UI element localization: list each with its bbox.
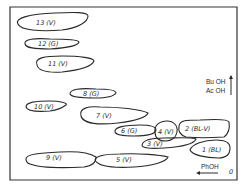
svg-text:PhOH: PhOH [201, 163, 219, 170]
svg-text:3 (V): 3 (V) [147, 140, 163, 148]
chromatogram-diagram: 13 (V) 12 (G) 11 (V) 8 (G) 10 (V) 7 (V) … [0, 0, 241, 188]
spot-12: 12 (G) [25, 39, 79, 49]
svg-text:13 (V): 13 (V) [36, 19, 56, 27]
svg-text:Bu OH: Bu OH [206, 78, 226, 85]
origin-label: 0 [229, 168, 233, 176]
svg-text:10 (V): 10 (V) [34, 103, 54, 111]
svg-text:2 (BL-V): 2 (BL-V) [185, 125, 210, 133]
svg-text:1 (BL): 1 (BL) [202, 146, 221, 154]
svg-text:12 (G): 12 (G) [38, 40, 58, 48]
spot-1: 1 (BL) [190, 140, 230, 158]
vertical-solvent-label: Bu OH Ac OH [206, 75, 233, 95]
svg-text:9 (V): 9 (V) [46, 154, 62, 162]
spot-2: 2 (BL-V) [179, 119, 230, 137]
svg-text:Ac OH: Ac OH [206, 87, 225, 94]
spot-9: 9 (V) [26, 152, 96, 168]
svg-text:5 (V): 5 (V) [116, 156, 132, 164]
svg-text:4 (V): 4 (V) [158, 128, 174, 136]
spot-5: 5 (V) [95, 154, 168, 168]
spot-6: 6 (G) [115, 125, 156, 136]
spot-11: 11 (V) [36, 56, 94, 72]
spot-3: 3 (V) [142, 138, 196, 149]
spot-7: 7 (V) [81, 107, 148, 124]
svg-text:8 (G): 8 (G) [83, 90, 99, 98]
spot-13: 13 (V) [17, 12, 88, 30]
svg-text:6 (G): 6 (G) [121, 127, 137, 135]
horizontal-solvent-label: PhOH [196, 163, 219, 175]
svg-text:11 (V): 11 (V) [48, 60, 68, 68]
spot-8: 8 (G) [70, 89, 116, 98]
spot-10: 10 (V) [26, 101, 66, 111]
svg-text:7 (V): 7 (V) [96, 112, 112, 120]
